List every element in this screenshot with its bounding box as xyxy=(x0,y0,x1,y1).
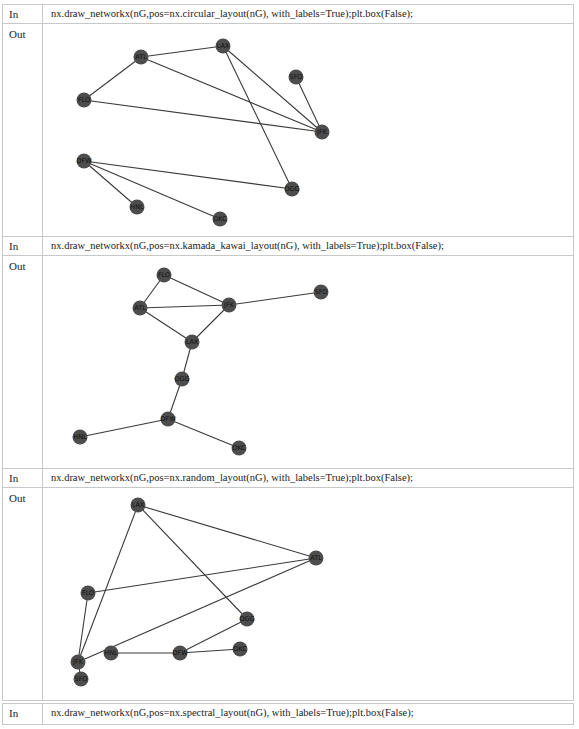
node-label-jfk: JFK xyxy=(223,301,235,309)
node-label-atl: ATL xyxy=(134,304,146,312)
node-label-okc: OKC xyxy=(232,444,246,452)
node-label-lax: LAX xyxy=(132,501,145,509)
node-label-flo: FLO xyxy=(78,96,90,104)
edge-sfo-jfk xyxy=(296,77,322,132)
network-graph-random: ATLLAXSFOFLOJFKDFWOGGHNLOKC xyxy=(71,498,324,687)
edge-flo-jfk xyxy=(78,593,88,662)
node-label-hnl: HNL xyxy=(130,203,144,211)
node-label-sfo: SFO xyxy=(75,675,88,683)
node-label-lax: LAX xyxy=(217,42,230,50)
edge-atl-flo xyxy=(84,57,141,100)
node-label-dfw: DFW xyxy=(160,415,176,423)
edge-dfw-okc xyxy=(180,649,240,653)
edge-atl-lax xyxy=(140,308,192,342)
edge-dfw-hnl xyxy=(84,161,137,207)
edge-flo-jfk xyxy=(84,100,322,132)
network-graph-kamada-kawai: ATLLAXSFOFLOJFKDFWOGGHNLOKC xyxy=(73,268,329,456)
node-label-ogg: OGG xyxy=(174,375,189,383)
edge-flo-jfk xyxy=(164,275,229,305)
node-label-sfo: SFO xyxy=(315,288,328,296)
node-label-jfk: JFK xyxy=(72,658,84,666)
node-label-okc: OKC xyxy=(213,215,227,223)
edge-lax-ogg xyxy=(223,46,292,189)
node-label-hnl: HNL xyxy=(73,433,87,441)
edge-ogg-dfw xyxy=(84,161,292,189)
node-label-dfw: DFW xyxy=(172,649,188,657)
node-label-lax: LAX xyxy=(186,338,199,346)
node-label-ogg: OGG xyxy=(239,615,254,623)
node-label-atl: ATL xyxy=(135,53,147,61)
edge-atl-jfk xyxy=(141,57,322,132)
node-label-atl: ATL xyxy=(310,554,322,562)
edge-lax-jfk xyxy=(192,305,229,342)
node-label-jfk: JFK xyxy=(316,128,328,136)
edge-atl-flo xyxy=(88,558,316,593)
edge-atl-lax xyxy=(141,46,223,57)
network-plots: ATLLAXSFOFLOJFKDFWOGGHNLOKC ATLLAXSFOFLO… xyxy=(0,0,579,729)
node-label-hnl: HNL xyxy=(104,649,118,657)
edge-atl-lax xyxy=(138,505,316,558)
edge-lax-jfk xyxy=(78,505,138,662)
edge-dfw-hnl xyxy=(80,419,168,437)
edge-lax-jfk xyxy=(223,46,322,132)
node-label-flo: FLO xyxy=(158,271,170,279)
node-label-okc: OKC xyxy=(233,645,247,653)
node-label-ogg: OGG xyxy=(284,185,299,193)
edge-atl-jfk xyxy=(140,305,229,308)
edge-dfw-okc xyxy=(168,419,239,448)
node-label-dfw: DFW xyxy=(76,157,92,165)
edge-sfo-jfk xyxy=(229,292,321,305)
network-graph-circular: ATLLAXSFOFLOJFKDFWOGGHNLOKC xyxy=(76,39,329,227)
node-label-flo: FLO xyxy=(82,589,94,597)
node-label-sfo: SFO xyxy=(290,73,303,81)
edge-lax-ogg xyxy=(138,505,247,619)
